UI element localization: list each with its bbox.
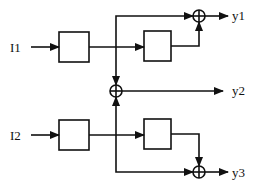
block-3 bbox=[59, 120, 89, 150]
output-label-y3: y3 bbox=[232, 166, 245, 179]
output-label-y2: y2 bbox=[232, 84, 245, 97]
block-1 bbox=[59, 32, 89, 62]
sum-junction-y3 bbox=[193, 166, 205, 178]
output-label-y1: y1 bbox=[232, 9, 245, 22]
sum-junction-y1 bbox=[193, 10, 205, 22]
wire-block2-sum-y1 bbox=[171, 22, 199, 46]
input-label-i1: I1 bbox=[10, 41, 21, 54]
wire-block3-sum-y3 bbox=[116, 135, 193, 172]
input-label-i2: I2 bbox=[10, 129, 21, 142]
block-diagram bbox=[0, 0, 260, 192]
block-4 bbox=[144, 119, 171, 149]
block-2 bbox=[144, 31, 171, 61]
sum-junction-y2 bbox=[110, 85, 122, 97]
wire-block4-sum-y3 bbox=[171, 134, 199, 166]
